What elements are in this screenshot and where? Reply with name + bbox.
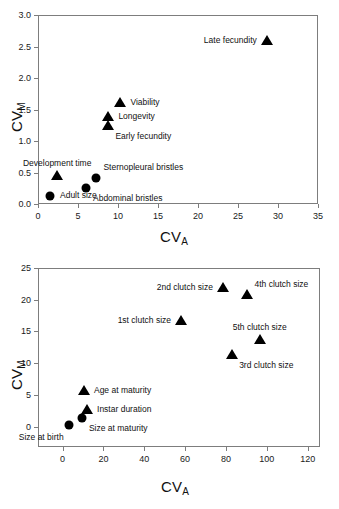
data-point-triangle	[81, 404, 93, 414]
y-tick-label: 3.0	[18, 11, 31, 20]
x-tick-mark	[144, 447, 145, 451]
data-point-triangle	[254, 334, 266, 344]
data-point-label: Instar duration	[97, 404, 151, 413]
y-tick-mark	[34, 78, 38, 79]
data-point-label: Sternopleural bristles	[103, 163, 183, 172]
x-tick-label: 20	[193, 212, 203, 221]
y-tick-label: 25	[21, 264, 31, 273]
x-tick-label: 20	[98, 455, 108, 464]
x-tick-mark	[238, 204, 239, 208]
y-axis-title-text: CV	[8, 111, 25, 132]
y-tick-label: 2.5	[18, 42, 31, 51]
data-point-label: Early fecundity	[115, 131, 171, 140]
x-tick-mark	[226, 447, 227, 451]
data-point-label: Viability	[130, 98, 159, 107]
x-tick-label: 10	[113, 212, 123, 221]
x-tick-mark	[38, 204, 39, 208]
data-point-circle	[77, 413, 86, 422]
y-tick-mark	[34, 300, 38, 301]
plot-frame-top	[38, 15, 318, 204]
y-tick-mark	[34, 47, 38, 48]
data-point-triangle	[78, 385, 90, 395]
x-tick-label: 40	[139, 455, 149, 464]
y-tick-label: 0	[26, 422, 31, 431]
y-axis-title-subscript: M	[16, 360, 27, 369]
y-axis-title-subscript: M	[16, 102, 27, 111]
x-tick-mark	[318, 204, 319, 208]
data-point-triangle	[226, 349, 238, 359]
x-axis-title-subscript: A	[181, 236, 188, 247]
x-tick-mark	[198, 204, 199, 208]
data-point-triangle	[261, 35, 273, 45]
y-tick-label: 1.0	[18, 137, 31, 146]
x-tick-label: 120	[300, 455, 315, 464]
x-axis-title-bottom: CVA	[161, 478, 189, 495]
x-tick-mark	[103, 447, 104, 451]
x-tick-mark	[185, 447, 186, 451]
x-axis-title-subscript: A	[182, 486, 189, 497]
x-tick-label: 80	[221, 455, 231, 464]
data-point-label: Age at maturity	[94, 386, 151, 395]
y-tick-label: 5	[26, 390, 31, 399]
x-axis-title-text: CV	[161, 478, 182, 495]
x-tick-label: 100	[259, 455, 274, 464]
x-tick-label: 5	[75, 212, 80, 221]
x-tick-mark	[63, 447, 64, 451]
x-tick-mark	[308, 447, 309, 451]
data-point-label: Size at birth	[19, 433, 64, 442]
y-tick-mark	[34, 268, 38, 269]
y-tick-mark	[34, 363, 38, 364]
y-tick-label: 2.0	[18, 74, 31, 83]
data-point-label: Adult size	[60, 190, 97, 199]
data-point-triangle	[114, 97, 126, 107]
data-point-label: 4th clutch size	[254, 280, 308, 289]
y-tick-label: 20	[21, 295, 31, 304]
data-point-label: 5th clutch size	[233, 323, 287, 332]
data-point-label: Late fecundity	[204, 35, 257, 44]
x-tick-label: 0	[60, 455, 65, 464]
x-tick-label: 35	[313, 212, 323, 221]
y-axis-title-text: CV	[8, 369, 25, 390]
x-axis-title-text: CV	[160, 228, 181, 245]
y-axis-title-bottom: CVM	[8, 360, 25, 390]
data-point-triangle	[102, 120, 114, 130]
data-point-circle	[46, 191, 55, 200]
y-tick-mark	[34, 173, 38, 174]
data-point-label: Size at maturity	[89, 423, 148, 432]
x-tick-label: 30	[273, 212, 283, 221]
data-point-label: Longevity	[118, 112, 154, 121]
x-tick-mark	[267, 447, 268, 451]
x-tick-label: 0	[35, 212, 40, 221]
y-tick-mark	[34, 141, 38, 142]
data-point-triangle	[217, 282, 229, 292]
data-point-triangle	[51, 170, 63, 180]
data-point-label: Development time	[23, 159, 92, 168]
x-tick-mark	[78, 204, 79, 208]
x-tick-label: 60	[180, 455, 190, 464]
chart-panel-bottom: 0510152025 020406080100120 2nd clutch si…	[0, 255, 339, 509]
x-tick-mark	[158, 204, 159, 208]
x-tick-label: 25	[233, 212, 243, 221]
y-tick-mark	[34, 427, 38, 428]
y-tick-mark	[34, 395, 38, 396]
data-point-circle	[64, 421, 73, 430]
y-tick-mark	[34, 110, 38, 111]
data-point-label: 3rd clutch size	[239, 360, 293, 369]
x-tick-mark	[118, 204, 119, 208]
y-tick-label: 0.5	[18, 168, 31, 177]
data-point-label: 1st clutch size	[118, 315, 171, 324]
data-point-circle	[92, 174, 101, 183]
x-axis-title-top: CVA	[160, 228, 188, 245]
data-point-triangle	[241, 289, 253, 299]
y-tick-mark	[34, 15, 38, 16]
data-point-triangle	[175, 315, 187, 325]
chart-panel-top: 0.00.51.01.52.02.53.0 05101520253035 Lat…	[0, 0, 339, 255]
x-tick-mark	[278, 204, 279, 208]
data-point-label: Abdominal bristles	[93, 194, 162, 203]
y-tick-label: 15	[21, 327, 31, 336]
y-tick-mark	[34, 331, 38, 332]
y-tick-label: 0.0	[18, 200, 31, 209]
x-tick-label: 15	[153, 212, 163, 221]
y-axis-title-top: CVM	[8, 102, 25, 132]
data-point-label: 2nd clutch size	[157, 282, 213, 291]
